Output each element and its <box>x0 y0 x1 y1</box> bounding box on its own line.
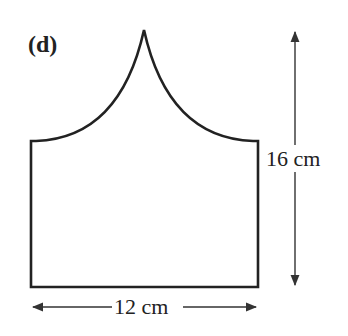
width-label: 12 cm <box>114 294 168 319</box>
diagram-figure: (d) 16 cm 12 cm <box>0 0 348 336</box>
height-label: 16 cm <box>266 146 320 171</box>
figure-label: (d) <box>28 31 57 57</box>
shape-outline <box>31 30 258 287</box>
